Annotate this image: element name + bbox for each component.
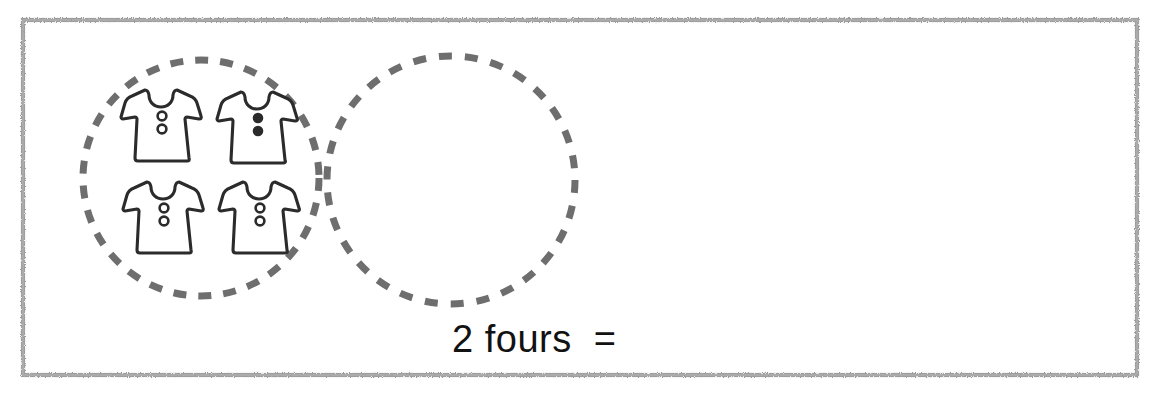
dress-icon: [118, 84, 206, 172]
dress-icon: [216, 176, 304, 264]
dashed-circle-outline: [327, 56, 575, 304]
equation-text: 2 fours =: [452, 316, 616, 362]
dress-icon: [120, 176, 208, 264]
group-one-items: [118, 84, 308, 274]
worksheet-page: 2 fours =: [0, 0, 1158, 410]
dress-icon: [214, 86, 302, 174]
group-circle-two[interactable]: [323, 52, 579, 308]
